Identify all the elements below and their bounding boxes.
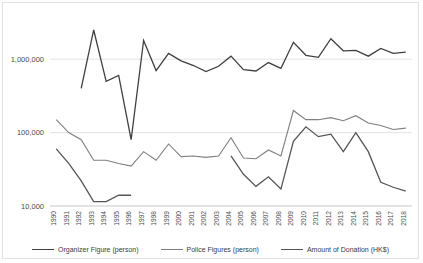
x-axis-tick-label: 1996 <box>125 211 132 226</box>
x-axis-tick-label: 2011 <box>312 211 319 226</box>
y-axis-tick-label: 1,000,000 <box>11 55 44 64</box>
x-axis-tick-label: 2016 <box>375 211 382 226</box>
plot-area: 1,000,000100,00010,000199019911992199319… <box>3 3 418 258</box>
x-axis-tick-label: 2002 <box>200 211 207 226</box>
legend-item-0[interactable]: Organizer Figure (person) <box>32 246 139 253</box>
chart-legend: Organizer Figure (person)Police Figures … <box>3 246 418 253</box>
x-axis-tick-label: 1998 <box>150 211 157 226</box>
x-axis-tick-label: 2007 <box>262 211 269 226</box>
x-axis-tick-label: 1994 <box>100 211 107 226</box>
legend-line-swatch <box>281 249 303 250</box>
series-line-2 <box>231 127 406 191</box>
x-axis-tick-label: 2005 <box>237 211 244 226</box>
x-axis-tick-label: 1999 <box>163 211 170 226</box>
series-line-0 <box>81 30 406 140</box>
legend-item-2[interactable]: Amount of Donation (HK$) <box>281 246 389 253</box>
x-axis-tick-label: 2004 <box>225 211 232 226</box>
legend-label: Organizer Figure (person) <box>58 246 139 253</box>
x-axis-tick-label: 2013 <box>337 211 344 226</box>
x-axis-tick-label: 1991 <box>63 211 70 226</box>
x-axis-tick-label: 2001 <box>188 211 195 226</box>
x-axis-tick-label: 1992 <box>75 211 82 226</box>
x-axis-tick-label: 2012 <box>325 211 332 226</box>
x-axis-tick-label: 2000 <box>175 211 182 226</box>
x-axis-tick-label: 1997 <box>138 211 145 226</box>
legend-line-swatch <box>161 249 183 250</box>
legend-label: Amount of Donation (HK$) <box>307 246 389 253</box>
series-line-1 <box>56 111 406 167</box>
y-axis-tick-label: 10,000 <box>21 202 44 211</box>
legend-label: Police Figures (person) <box>187 246 259 253</box>
x-axis-tick-label: 2017 <box>387 211 394 226</box>
x-axis-tick-label: 2003 <box>213 211 220 226</box>
x-axis-tick-label: 2014 <box>350 211 357 226</box>
x-axis-tick-label: 2018 <box>400 211 407 226</box>
x-axis-tick-label: 2008 <box>275 211 282 226</box>
chart-container: 1,000,000100,00010,000199019911992199319… <box>2 2 419 259</box>
x-axis-tick-label: 2006 <box>250 211 257 226</box>
x-axis-tick-label: 1990 <box>50 211 57 226</box>
x-axis-tick-label: 1993 <box>88 211 95 226</box>
line-chart: 1,000,000100,00010,000199019911992199319… <box>3 3 418 258</box>
x-axis-tick-label: 2015 <box>362 211 369 226</box>
series-line-2 <box>56 149 131 202</box>
y-axis-tick-label: 100,000 <box>17 128 44 137</box>
legend-line-swatch <box>32 249 54 250</box>
x-axis-tick-label: 2010 <box>300 211 307 226</box>
x-axis-tick-label: 1995 <box>113 211 120 226</box>
x-axis-tick-label: 2009 <box>287 211 294 226</box>
legend-item-1[interactable]: Police Figures (person) <box>161 246 259 253</box>
